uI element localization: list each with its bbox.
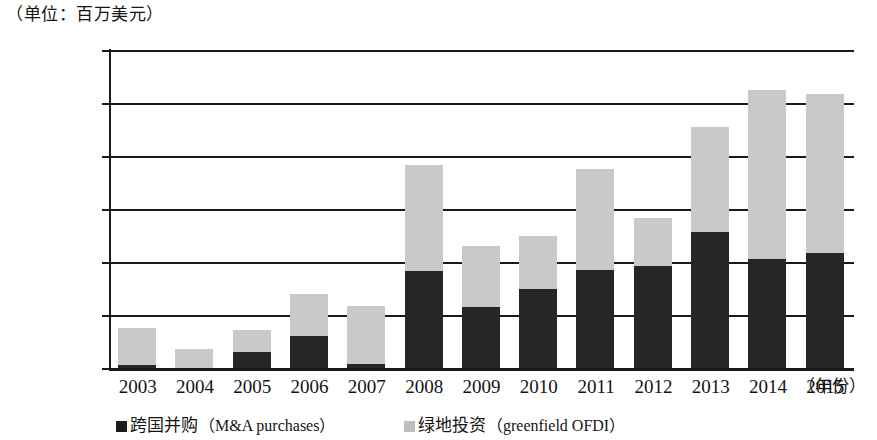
x-tick-label-2014: 2014 (739, 374, 796, 400)
x-axis-title: （年份） (798, 374, 866, 400)
bar-stack (806, 94, 844, 368)
x-axis-labels: 2003200420052006200720082009201020112012… (109, 374, 854, 402)
bar-stack (691, 127, 729, 368)
bar-segment-ma (806, 253, 844, 368)
bar-segment-ma (462, 307, 500, 368)
x-tick-label-2009: 2009 (453, 374, 510, 400)
bar-segment-greenfield (290, 294, 328, 336)
legend-swatch-greenfield-icon (404, 421, 415, 432)
bar-segment-greenfield (576, 169, 614, 270)
x-tick-label-2012: 2012 (625, 374, 682, 400)
bar-stack (462, 246, 500, 368)
y-tick-mark-60000 (102, 209, 109, 211)
legend-label-ma-en: （M&A purchases） (199, 414, 335, 438)
y-tick-mark-80000 (102, 156, 109, 158)
bar-segment-greenfield (405, 165, 443, 271)
x-tick-label-2013: 2013 (682, 374, 739, 400)
bar-stack (233, 330, 271, 368)
bar-stack (576, 169, 614, 368)
y-tick-mark-120000 (102, 50, 109, 52)
bar-segment-ma (748, 259, 786, 368)
legend-label-greenfield-en: （greenfield OFDI） (487, 414, 625, 438)
legend-label-greenfield-cn: 绿地投资 (418, 414, 486, 438)
bar-stack (634, 218, 672, 368)
bar-segment-greenfield (748, 90, 786, 260)
x-tick-label-2004: 2004 (166, 374, 223, 400)
bar-segment-ma (576, 270, 614, 368)
bar-segment-ma (118, 365, 156, 368)
bar-segment-ma (233, 352, 271, 368)
chart-legend: 跨国并购 （M&A purchases） 绿地投资 （greenfield OF… (116, 414, 816, 440)
bar-segment-ma (634, 266, 672, 368)
bar-segment-ma (290, 336, 328, 368)
bar-segment-greenfield (462, 246, 500, 307)
y-tick-mark-100000 (102, 103, 109, 105)
gridline-0 (109, 368, 854, 371)
bar-stack (519, 236, 557, 369)
x-tick-label-2011: 2011 (567, 374, 624, 400)
bar-stack (118, 328, 156, 368)
x-tick-label-2008: 2008 (396, 374, 453, 400)
bar-segment-ma (691, 232, 729, 368)
y-tick-mark-20000 (102, 315, 109, 317)
x-tick-label-2006: 2006 (281, 374, 338, 400)
bar-stack (347, 306, 385, 368)
x-tick-label-2007: 2007 (338, 374, 395, 400)
x-tick-label-2005: 2005 (224, 374, 281, 400)
bar-segment-greenfield (233, 330, 271, 353)
y-tick-mark-0 (102, 368, 109, 370)
legend-item-ma: 跨国并购 （M&A purchases） (116, 414, 335, 438)
stacked-bar-chart-figure: （单位：百万美元） 020000400006000080000100000120… (0, 0, 877, 440)
bar-series-container (109, 50, 854, 368)
bar-segment-ma (405, 271, 443, 368)
bar-stack (748, 90, 786, 368)
bar-segment-greenfield (691, 127, 729, 232)
bar-stack (290, 294, 328, 368)
x-tick-label-2010: 2010 (510, 374, 567, 400)
legend-item-greenfield: 绿地投资 （greenfield OFDI） (404, 414, 625, 438)
bar-segment-greenfield (634, 218, 672, 266)
x-tick-label-2003: 2003 (109, 374, 166, 400)
y-tick-mark-40000 (102, 262, 109, 264)
bar-segment-ma (347, 364, 385, 368)
legend-swatch-ma-icon (116, 421, 127, 432)
bar-stack (405, 165, 443, 368)
bar-segment-greenfield (118, 328, 156, 365)
bar-segment-ma (519, 289, 557, 369)
bar-segment-greenfield (175, 349, 213, 368)
plot-area: 020000400006000080000100000120000 (109, 50, 854, 368)
bar-stack (175, 349, 213, 368)
bar-segment-greenfield (806, 94, 844, 253)
legend-label-ma-cn: 跨国并购 (130, 414, 198, 438)
bar-segment-greenfield (347, 306, 385, 364)
bar-segment-greenfield (519, 236, 557, 289)
unit-caption: （单位：百万美元） (6, 3, 164, 27)
